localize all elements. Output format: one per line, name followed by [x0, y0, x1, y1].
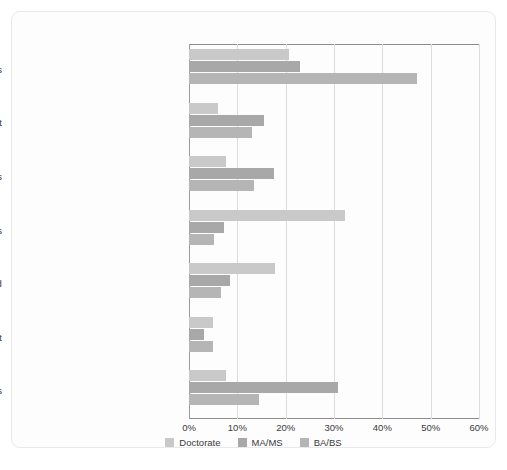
bar — [189, 287, 221, 298]
bar-group — [189, 151, 479, 205]
bar-group — [189, 258, 479, 312]
bar — [189, 341, 213, 352]
chart-legend: DoctorateMA/MSBA/BS — [12, 437, 495, 448]
category-label: Other educational institutions — [0, 385, 2, 396]
bar-group — [189, 44, 479, 98]
bar — [189, 394, 259, 405]
bar — [189, 127, 252, 138]
bar — [189, 61, 300, 72]
category-label: For-profit companies — [0, 64, 2, 75]
bar — [189, 49, 289, 60]
bar — [189, 329, 204, 340]
chart-figure: For-profit companiesState or local gover… — [11, 11, 496, 448]
x-tick-label: 40% — [362, 422, 402, 433]
legend-item[interactable]: Doctorate — [165, 437, 220, 448]
bar — [189, 103, 218, 114]
bar — [189, 156, 226, 167]
bar-group — [189, 205, 479, 259]
bar — [189, 263, 275, 274]
bar-group — [189, 98, 479, 152]
bar — [189, 180, 254, 191]
legend-label: BA/BS — [314, 437, 342, 448]
legend-swatch-icon — [238, 438, 247, 447]
category-label: Not-for-profit organizations — [0, 171, 2, 182]
gridline-60 — [479, 44, 480, 419]
category-label: Universities and 4-year colleges — [0, 225, 2, 236]
bar — [189, 115, 264, 126]
x-tick-label: 10% — [217, 422, 257, 433]
bar — [189, 222, 224, 233]
bar — [189, 234, 214, 245]
x-tick-label: 60% — [459, 422, 499, 433]
category-label: Federal government — [0, 332, 2, 343]
legend-item[interactable]: MA/MS — [238, 437, 283, 448]
bar-group — [189, 365, 479, 419]
x-tick-label: 50% — [411, 422, 451, 433]
legend-swatch-icon — [300, 438, 309, 447]
bar — [189, 382, 338, 393]
bar — [189, 275, 230, 286]
bar — [189, 317, 213, 328]
legend-label: Doctorate — [179, 437, 220, 448]
x-tick-label: 0% — [169, 422, 209, 433]
bar — [189, 73, 417, 84]
legend-swatch-icon — [165, 438, 174, 447]
category-label: State or local government — [0, 117, 2, 128]
bar — [189, 210, 345, 221]
bar — [189, 370, 226, 381]
bar — [189, 168, 274, 179]
x-tick-label: 20% — [266, 422, 306, 433]
bar-group — [189, 312, 479, 366]
category-label: Self-employed — [0, 278, 2, 289]
x-tick-label: 30% — [314, 422, 354, 433]
legend-item[interactable]: BA/BS — [300, 437, 342, 448]
plot-area — [189, 44, 479, 419]
legend-label: MA/MS — [252, 437, 283, 448]
